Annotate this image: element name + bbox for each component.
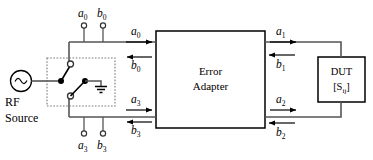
- error-adapter-label-line2: Adapter: [156, 81, 265, 92]
- wave-label-a3-sub: 3: [137, 99, 141, 108]
- diagram-canvas: [0, 0, 373, 160]
- dut-smatrix-suffix: ]: [346, 81, 350, 92]
- switch-enclosure-dotted-box: [47, 58, 115, 106]
- wave-label-b1-sub: 1: [282, 64, 286, 73]
- wave-label-a0: a0: [131, 26, 141, 40]
- wave-label-a2: a2: [276, 94, 286, 108]
- switch-throw-upper-left: [68, 61, 74, 67]
- wave-label-b3-sub: 3: [137, 130, 141, 139]
- wave-label-b0-sub: 0: [137, 65, 141, 74]
- terminal-label-b3-sub: 3: [103, 145, 107, 154]
- rf-source-label-line1: RF: [5, 96, 20, 108]
- switch-blade-right: [71, 82, 85, 96]
- wave-label-b1: b1: [276, 59, 286, 73]
- terminal-label-b0: b0: [97, 8, 107, 22]
- port-terminal-b0: [100, 23, 105, 28]
- dut-box: [318, 57, 365, 102]
- terminal-label-a3: a3: [78, 140, 88, 154]
- wave-label-a1: a1: [276, 26, 286, 40]
- terminal-label-b3: b3: [97, 140, 107, 154]
- dut-label-line1: DUT: [318, 67, 365, 78]
- terminal-label-a3-sub: 3: [84, 145, 88, 154]
- ground-icon: [95, 87, 107, 93]
- terminal-label-a0-sub: 0: [84, 13, 88, 22]
- wave-label-b2-sub: 2: [282, 132, 286, 141]
- port-terminal-a3: [81, 131, 86, 136]
- terminal-label-a0: a0: [78, 8, 88, 22]
- port-terminal-a0: [81, 23, 86, 28]
- error-adapter-label-line1: Error: [156, 66, 265, 77]
- wave-label-a2-sub: 2: [282, 99, 286, 108]
- dut-smatrix-label: [Sij]: [318, 82, 365, 95]
- wave-label-a0-sub: 0: [137, 31, 141, 40]
- port-terminal-b3: [100, 131, 105, 136]
- rf-source-label-line2: Source: [5, 112, 38, 124]
- terminal-label-b0-sub: 0: [103, 13, 107, 22]
- wave-label-b3: b3: [131, 125, 141, 139]
- wave-label-a3: a3: [131, 94, 141, 108]
- wave-label-b0: b0: [131, 60, 141, 74]
- calibration-block-diagram: Error Adapter DUT [Sij] RF Source a0 b0 …: [0, 0, 373, 160]
- wave-label-b2: b2: [276, 127, 286, 141]
- switch-blade-left: [61, 66, 70, 81]
- switch-to-ground-wire: [85, 81, 101, 86]
- wave-label-a1-sub: 1: [282, 31, 286, 40]
